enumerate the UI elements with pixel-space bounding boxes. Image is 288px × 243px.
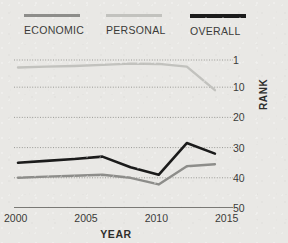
legend-label-personal: PERSONAL (106, 24, 166, 36)
y-tick-1: 1 (233, 54, 239, 66)
data-series (18, 64, 215, 185)
line-chart: 1 10 20 30 40 50 RANK (0, 48, 288, 208)
legend-swatch-economic (24, 14, 80, 17)
y-tick-40: 40 (233, 172, 245, 184)
x-tick-2015: 2015 (215, 212, 238, 224)
x-tick-2010: 2010 (145, 212, 168, 224)
legend-item-overall[interactable]: OVERALL (190, 14, 246, 37)
y-tick-10: 10 (233, 81, 245, 93)
legend-label-overall: OVERALL (190, 25, 246, 37)
legend-swatch-overall (190, 14, 246, 18)
legend-swatch-personal (106, 14, 162, 17)
legend-label-economic: ECONOMIC (24, 24, 84, 36)
series-line-personal (18, 64, 215, 91)
plot-canvas (0, 48, 288, 208)
x-tick-2005: 2005 (74, 212, 97, 224)
legend-item-economic[interactable]: ECONOMIC (24, 14, 84, 36)
series-line-economic (18, 164, 215, 184)
y-tick-20: 20 (233, 111, 245, 123)
legend-item-personal[interactable]: PERSONAL (106, 14, 166, 36)
y-axis-title: RANK (258, 79, 269, 110)
chart-legend: ECONOMIC PERSONAL OVERALL (0, 14, 288, 44)
x-axis-title: YEAR (0, 228, 232, 240)
series-line-overall (18, 143, 215, 175)
y-tick-30: 30 (233, 142, 245, 154)
x-tick-2000: 2000 (4, 212, 27, 224)
